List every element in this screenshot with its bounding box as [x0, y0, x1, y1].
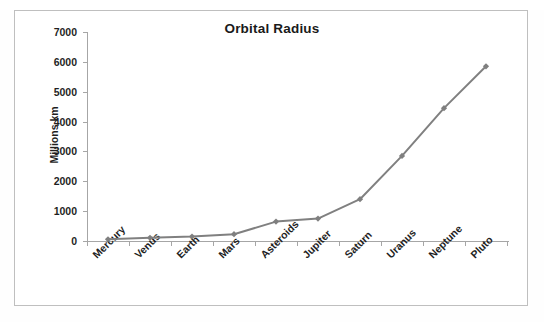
scan-artifact: [0, 0, 544, 10]
data-point-mercury: [105, 236, 111, 242]
series-markers: [105, 63, 489, 242]
series-line: [108, 66, 486, 239]
data-series-orbital-radius: [15, 11, 529, 307]
data-point-asteroids: [273, 218, 279, 224]
data-point-mars: [231, 231, 237, 237]
chart-frame: Orbital Radius Millions km 0100020003000…: [14, 10, 528, 306]
data-point-jupiter: [315, 216, 321, 222]
data-point-earth: [189, 233, 195, 239]
data-point-venus: [147, 235, 153, 241]
plot-area: Millions km 0100020003000400050006000700…: [15, 11, 529, 307]
